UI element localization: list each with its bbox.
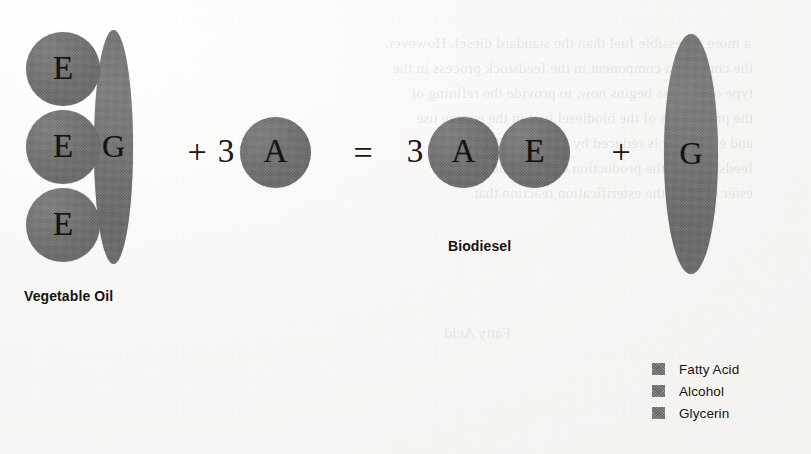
biodiesel-fatty-acid-label: E (524, 135, 544, 168)
fatty-acid-label-mid: E (53, 130, 73, 163)
vegetable-oil-caption: Vegetable Oil (24, 288, 113, 304)
plus-operator-one: + (184, 136, 210, 168)
fatty-acid-label-bottom: E (53, 208, 73, 241)
legend-swatch-icon (652, 407, 665, 419)
fatty-acid-shape-top: E (26, 32, 100, 106)
legend-item-fatty-acid: Fatty Acid (652, 358, 739, 380)
biodiesel-alcohol-label: A (452, 135, 476, 168)
alcohol-coefficient: 3 (215, 135, 237, 167)
legend-label-fatty-acid: Fatty Acid (679, 362, 739, 377)
alcohol-shape: A (240, 117, 311, 188)
legend-label-alcohol: Alcohol (679, 384, 724, 399)
glycerin-product-label: G (679, 137, 702, 169)
biodiesel-alcohol-shape: A (428, 117, 499, 188)
fatty-acid-label-top: E (53, 52, 73, 85)
legend-swatch-icon (652, 363, 665, 375)
alcohol-label: A (264, 135, 288, 168)
figure-canvas: a more accessible fuel than the standard… (0, 0, 811, 454)
legend-swatch-icon (652, 385, 665, 397)
glycerin-backbone-label: G (102, 130, 125, 162)
fatty-acid-shape-mid: E (26, 110, 100, 184)
legend-item-alcohol: Alcohol (652, 380, 739, 402)
biodiesel-caption: Biodiesel (448, 238, 511, 254)
glycerin-product-shape: G (664, 34, 718, 274)
equals-operator: = (350, 137, 376, 169)
biodiesel-coefficient: 3 (404, 135, 426, 167)
plus-operator-two: + (608, 136, 634, 168)
legend-item-glycerin: Glycerin (652, 402, 739, 424)
fatty-acid-shape-bottom: E (26, 188, 100, 262)
legend-label-glycerin: Glycerin (679, 406, 729, 421)
legend: Fatty Acid Alcohol Glycerin (652, 358, 739, 424)
biodiesel-fatty-acid-shape: E (499, 117, 570, 188)
